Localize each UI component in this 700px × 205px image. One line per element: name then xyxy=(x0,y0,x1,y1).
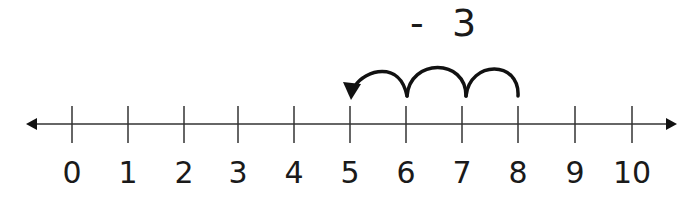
operand-value: 3 xyxy=(452,1,476,45)
jump-arrowhead-icon xyxy=(343,82,361,100)
tick-label-6: 6 xyxy=(396,155,415,190)
subtraction-label: - 3 xyxy=(410,1,476,45)
tick-label-0: 0 xyxy=(62,155,81,190)
jump-arc-6-to-5 xyxy=(355,72,407,97)
number-line-diagram: - 3 012345678910 xyxy=(0,0,700,205)
right-arrowhead-icon xyxy=(666,118,677,130)
jump-arcs xyxy=(355,68,518,97)
tick-label-5: 5 xyxy=(340,155,359,190)
tick-label-8: 8 xyxy=(508,155,527,190)
tick-label-2: 2 xyxy=(174,155,193,190)
tick-label-1: 1 xyxy=(118,155,137,190)
tick-label-4: 4 xyxy=(284,155,303,190)
left-arrowhead-icon xyxy=(26,118,37,130)
tick-label-3: 3 xyxy=(228,155,247,190)
tick-label-10: 10 xyxy=(613,155,651,190)
tick-label-7: 7 xyxy=(452,155,471,190)
jump-arc-8-to-7 xyxy=(466,69,518,96)
jump-arc-7-to-6 xyxy=(407,68,466,97)
operator-minus: - xyxy=(410,1,424,45)
tick-labels: 012345678910 xyxy=(62,155,651,190)
tick-label-9: 9 xyxy=(565,155,584,190)
